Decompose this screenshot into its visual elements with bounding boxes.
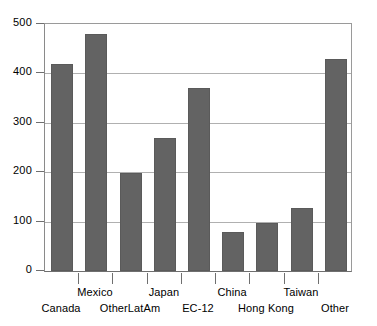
y-tick-500 (36, 23, 44, 24)
bar-canada (51, 64, 73, 271)
bar-japan (154, 138, 176, 271)
x-axis-label-otherlatam: OtherLatAm (100, 303, 160, 314)
plot-area (44, 23, 352, 272)
y-axis-label: 0 (0, 264, 32, 275)
x-tick (284, 273, 285, 284)
bar-otherlatam (120, 173, 142, 271)
x-axis-label-china: China (217, 287, 246, 298)
x-tick (78, 273, 79, 284)
y-axis-label: 400 (0, 66, 32, 77)
x-tick (147, 273, 148, 284)
x-tick (181, 273, 182, 284)
y-tick-400 (36, 72, 44, 73)
x-tick (112, 273, 113, 284)
bar-ec-12 (188, 88, 210, 271)
x-axis-label-hong-kong: Hong Kong (238, 303, 294, 314)
x-axis-label-ec-12: EC-12 (182, 303, 214, 314)
x-tick (249, 273, 250, 284)
bar-china (222, 232, 244, 271)
bar-chart-figure: 0100200300400500 CanadaMexicoOtherLatAmJ… (0, 0, 377, 326)
y-axis-label: 300 (0, 116, 32, 127)
x-axis-label-other: Other (321, 303, 349, 314)
x-axis-label-taiwan: Taiwan (284, 287, 319, 298)
x-axis-label-mexico: Mexico (77, 287, 112, 298)
y-tick-200 (36, 171, 44, 172)
y-tick-300 (36, 122, 44, 123)
x-tick (318, 273, 319, 284)
y-axis-label: 100 (0, 215, 32, 226)
bar-other (325, 59, 347, 271)
x-axis-label-canada: Canada (41, 303, 80, 314)
bar-hong-kong (256, 223, 278, 271)
y-tick-100 (36, 221, 44, 222)
y-axis-label: 200 (0, 165, 32, 176)
bar-mexico (85, 34, 107, 271)
y-tick-0 (36, 270, 44, 271)
bar-taiwan (291, 208, 313, 271)
x-axis-label-japan: Japan (149, 287, 179, 298)
y-axis-label: 500 (0, 17, 32, 28)
x-tick (215, 273, 216, 284)
